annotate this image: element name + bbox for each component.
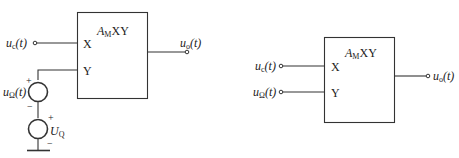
arg: (t) — [443, 69, 454, 83]
product-label: XY — [111, 24, 128, 38]
dc-plus-sign: + — [48, 112, 54, 124]
modulating-source-label: uΩ(t) — [3, 86, 26, 102]
right-block-label: AMXY — [345, 47, 377, 63]
right-output-terminal — [426, 74, 430, 78]
right-modulating-input-label: uΩ(t) — [253, 86, 276, 102]
product-label: XY — [359, 46, 376, 60]
dc-minus-sign: − — [47, 138, 53, 150]
arg: (t) — [190, 36, 201, 50]
right-output-label: uo(t) — [433, 70, 454, 86]
left-output-label: uo(t) — [180, 37, 201, 53]
right-carrier-input-label: uc(t) — [255, 60, 276, 76]
circuit-wiring — [0, 0, 459, 158]
arg: (t) — [15, 85, 26, 99]
left-block-label: AMXY — [97, 25, 129, 41]
left-carrier-input-label: uc(t) — [6, 37, 27, 53]
sub: Q — [59, 130, 65, 139]
modulating-minus-sign: − — [27, 101, 33, 113]
right-y-port-label: Y — [331, 87, 340, 99]
arg: (t) — [16, 36, 27, 50]
right-x-port-label: X — [331, 61, 340, 73]
modulating-plus-sign: + — [26, 75, 32, 87]
left-input-terminal — [33, 41, 37, 45]
var: U — [50, 124, 59, 138]
arg: (t) — [265, 85, 276, 99]
right-input-y-terminal — [279, 90, 283, 94]
left-y-port-label: Y — [83, 65, 92, 77]
right-input-x-terminal — [279, 64, 283, 68]
arg: (t) — [265, 59, 276, 73]
left-x-port-label: X — [83, 38, 92, 50]
dc-voltage-source — [29, 120, 48, 139]
